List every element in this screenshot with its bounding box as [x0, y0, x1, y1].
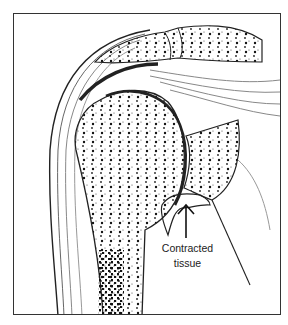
- annotation-label-line1: Contracted: [150, 241, 225, 255]
- annotation-label-line2: tissue: [150, 256, 225, 270]
- up-arrow-icon: [178, 205, 194, 238]
- shoulder-illustration: [0, 0, 288, 325]
